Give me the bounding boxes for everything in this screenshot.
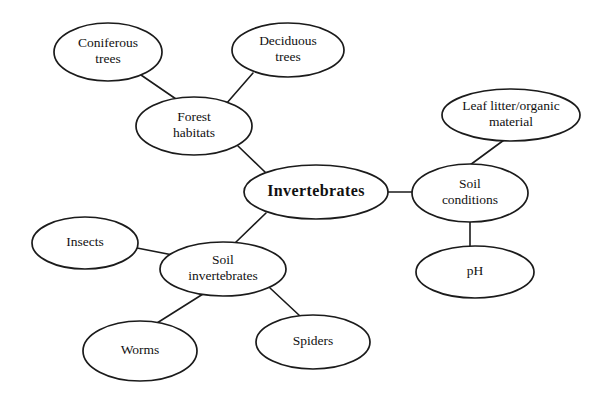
node-worms[interactable]: Worms [83,321,197,381]
node-label-line: Leaf litter/organic [462,98,560,113]
node-label-line: Insects [66,234,104,249]
edge-coniferous-to-forest [141,75,176,99]
node-label-line: Deciduous [259,33,317,48]
node-label-ph: pH [467,263,484,278]
node-label-line: Soil [459,176,481,191]
edge-forest-to-invertebrates [238,146,265,172]
node-label-line: Spiders [293,333,334,348]
node-leaf-litter-organic-material[interactable]: Leaf litter/organicmaterial [442,89,580,141]
node-label-line: material [489,114,533,129]
node-coniferous-trees[interactable]: Coniferoustrees [54,23,162,81]
node-label-line: invertebrates [188,268,258,283]
edge-leaf-litter-to-soil-conditions [470,140,504,165]
edge-soil-invertebrates-to-spiders [270,288,300,316]
concept-map-container: ConiferoustreesDeciduoustreesForesthabit… [0,0,615,407]
node-label-worms: Worms [121,342,160,357]
node-label-line: Soil [212,252,234,267]
node-label-line: Coniferous [78,35,138,50]
concept-map-canvas: ConiferoustreesDeciduoustreesForesthabit… [0,0,615,407]
node-label-invertebrates: Invertebrates [267,182,365,199]
node-label-line: Worms [121,342,160,357]
node-soil-invertebrates[interactable]: Soilinvertebrates [160,242,286,296]
node-label-insects: Insects [66,234,104,249]
node-spiders[interactable]: Spiders [256,315,370,369]
node-ph[interactable]: pH [416,246,534,298]
node-insects[interactable]: Insects [32,217,138,269]
node-label-spiders: Spiders [293,333,334,348]
node-label-line: conditions [442,192,498,207]
edge-soil-invertebrates-to-worms [157,294,203,323]
node-label-line: habitats [173,125,215,140]
edge-deciduous-to-forest [226,73,253,104]
node-label-line: trees [95,51,120,66]
edge-invertebrates-to-soil-invertebrates [235,213,266,243]
node-label-line: Invertebrates [267,182,365,199]
node-deciduous-trees[interactable]: Deciduoustrees [232,23,344,77]
node-label-line: trees [275,49,300,64]
node-soil-conditions[interactable]: Soilconditions [412,164,528,222]
node-label-line: pH [467,263,484,278]
node-invertebrates[interactable]: Invertebrates [244,165,388,219]
node-label-line: Forest [177,109,211,124]
node-forest-habitats[interactable]: Foresthabitats [136,97,252,155]
node-label-forest-habitats: Foresthabitats [173,109,215,140]
nodes-layer: ConiferoustreesDeciduoustreesForesthabit… [32,23,580,381]
